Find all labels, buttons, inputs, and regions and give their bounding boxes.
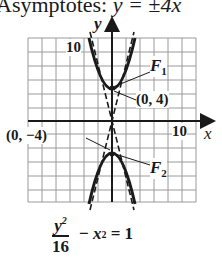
f2-label: F2 — [150, 158, 167, 179]
hyperbola-equation: y2 16 − x2 = 1 — [52, 212, 133, 257]
x-axis-label: x — [204, 124, 212, 144]
v-upper-leader — [114, 91, 136, 100]
f1-label: F1 — [150, 56, 167, 77]
x-tick-label: 10 — [172, 123, 187, 140]
vertex-lower-label: (0, −4) — [6, 127, 47, 144]
fraction: y2 16 — [52, 212, 69, 257]
y-tick-label: 10 — [66, 39, 81, 56]
vertex-lower-point — [110, 152, 115, 157]
vertex-upper-label: (0, 4) — [136, 91, 169, 108]
y-axis-label: y — [94, 14, 102, 34]
